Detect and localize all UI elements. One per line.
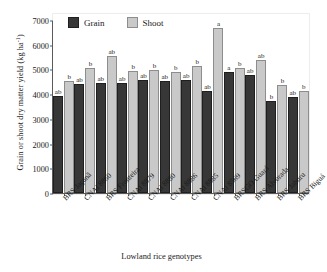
plot-area: 70006000500040003000200010000 abbabbabab… <box>52 21 309 194</box>
bar-group: abb <box>53 21 74 193</box>
legend-label-shoot: Shoot <box>143 18 164 28</box>
significance-letter: b <box>302 83 306 92</box>
significance-letter: ab <box>204 83 211 92</box>
significance-letter: ab <box>258 52 265 61</box>
bar-shoot[interactable]: b <box>64 81 74 193</box>
x-axis-tick-labels: BRS JaçanãCNAi 8860BRS FronteiraCNAi 887… <box>52 196 309 248</box>
significance-letter: ab <box>183 72 190 81</box>
significance-letter: a <box>217 20 220 29</box>
significance-letter: ab <box>119 75 126 84</box>
bar-grain[interactable]: ab <box>53 96 63 193</box>
significance-letter: ab <box>76 76 83 85</box>
y-axis-title: Grain or shoot dry matter yield (kg ha-1… <box>15 12 26 192</box>
significance-letter: b <box>131 63 135 72</box>
significance-letter: b <box>67 73 71 82</box>
bar-group: aba <box>202 21 223 193</box>
significance-letter: b <box>270 93 274 102</box>
significance-letter: ab <box>140 72 147 81</box>
bar-group: ab <box>224 21 245 193</box>
y-axis-title-main: Grain or shoot dry matter yield (kg ha <box>16 42 25 170</box>
legend-item-grain: Grain <box>68 17 105 28</box>
legend-swatch-grain-icon <box>68 17 79 28</box>
significance-letter: b <box>281 77 285 86</box>
significance-letter: b <box>238 60 242 69</box>
significance-letter: ab <box>109 48 116 57</box>
bar-group: abb <box>288 21 309 193</box>
legend-label-grain: Grain <box>84 18 105 28</box>
significance-letter: ab <box>247 67 254 76</box>
significance-letter: b <box>174 64 178 73</box>
significance-letter: ab <box>289 89 296 98</box>
bar-group: abab <box>96 21 117 193</box>
y-axis-tick-mark <box>50 194 53 195</box>
bar-group: abb <box>138 21 159 193</box>
y-axis-title-exponent: -1 <box>15 37 21 42</box>
y-axis-title-tail: ) <box>16 34 25 37</box>
legend-swatch-shoot-icon <box>127 17 138 28</box>
bar-group: abb <box>181 21 202 193</box>
bar-groups: abbabbabababbabbabbabbabaabababbbabb <box>53 21 309 193</box>
bar-group: abb <box>74 21 95 193</box>
significance-letter: ab <box>98 75 105 84</box>
significance-letter: b <box>89 60 93 69</box>
significance-letter: ab <box>55 88 62 97</box>
significance-letter: ab <box>161 73 168 82</box>
legend-item-shoot: Shoot <box>127 17 164 28</box>
significance-letter: b <box>195 58 199 67</box>
bar-shoot[interactable]: a <box>213 28 223 193</box>
significance-letter: a <box>227 64 230 73</box>
significance-letter: b <box>153 62 157 71</box>
chart-legend: Grain Shoot <box>68 17 164 28</box>
x-axis-title: Lowland rice genotypes <box>0 252 323 261</box>
bar-group: abb <box>160 21 181 193</box>
